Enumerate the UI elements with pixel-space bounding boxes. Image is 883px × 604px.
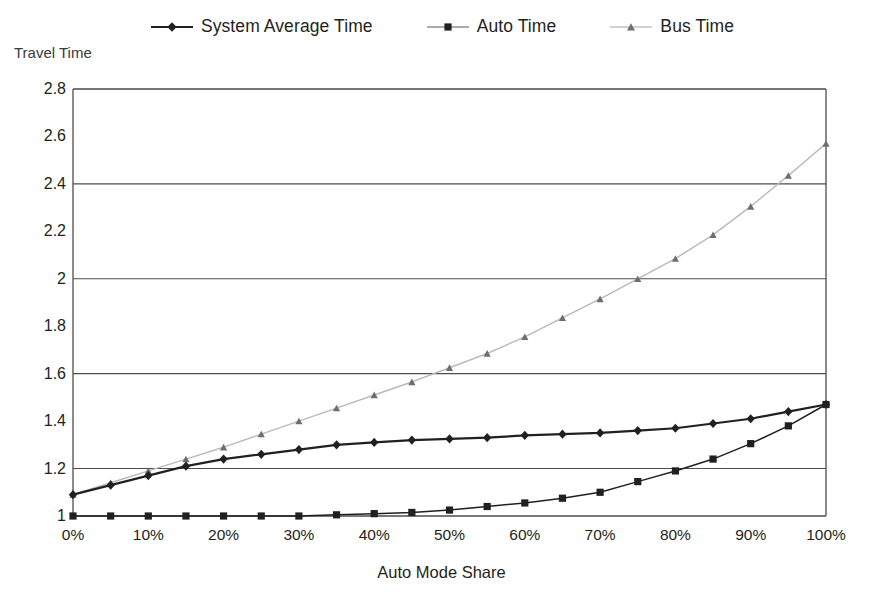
data-point-marker <box>484 350 491 357</box>
y-tick-label: 1.4 <box>10 412 66 430</box>
data-point-marker <box>521 499 528 506</box>
data-point-marker <box>445 434 453 443</box>
x-axis-title: Auto Mode Share <box>0 563 883 582</box>
data-point-marker <box>634 426 642 435</box>
data-point-marker <box>220 444 227 451</box>
data-point-marker <box>484 503 491 510</box>
data-point-marker <box>521 431 529 440</box>
data-point-marker <box>69 512 76 519</box>
x-tick-label: 80% <box>660 526 691 544</box>
data-point-marker <box>446 506 453 513</box>
y-tick-label: 1.8 <box>10 317 66 335</box>
y-tick-label: 1.2 <box>10 460 66 478</box>
data-point-marker <box>747 414 755 423</box>
data-point-marker <box>107 512 114 519</box>
x-tick-label: 60% <box>509 526 540 544</box>
data-point-marker <box>295 418 302 425</box>
data-point-marker <box>672 467 679 474</box>
x-tick-label: 10% <box>133 526 164 544</box>
y-tick-label: 2.6 <box>10 127 66 145</box>
data-point-marker <box>295 445 303 454</box>
data-point-marker <box>785 422 792 429</box>
data-point-marker <box>408 435 416 444</box>
data-point-marker <box>784 407 792 416</box>
data-point-marker <box>822 140 829 147</box>
x-tick-label: 70% <box>585 526 616 544</box>
data-point-marker <box>596 428 604 437</box>
data-point-marker <box>521 333 528 340</box>
data-point-marker <box>333 405 340 412</box>
data-point-marker <box>371 392 378 399</box>
data-point-marker <box>709 455 716 462</box>
data-point-marker <box>483 433 491 442</box>
data-point-marker <box>408 509 415 516</box>
data-point-marker <box>145 512 152 519</box>
data-point-marker <box>370 438 378 447</box>
x-tick-label: 0% <box>62 526 84 544</box>
data-point-marker <box>671 424 679 433</box>
data-point-marker <box>371 510 378 517</box>
data-point-marker <box>634 478 641 485</box>
data-point-marker <box>258 512 265 519</box>
y-tick-label: 2.4 <box>10 175 66 193</box>
y-axis-ticks: 2.82.62.42.221.81.61.41.21 <box>0 0 66 604</box>
data-point-marker <box>709 419 717 428</box>
data-point-marker <box>446 364 453 371</box>
data-point-marker <box>219 454 227 463</box>
data-point-marker <box>182 512 189 519</box>
data-point-marker <box>257 450 265 459</box>
data-point-marker <box>69 490 77 499</box>
x-tick-label: 20% <box>208 526 239 544</box>
data-point-marker <box>747 440 754 447</box>
y-tick-label: 2.8 <box>10 80 66 98</box>
data-point-marker <box>597 296 604 303</box>
x-tick-label: 100% <box>806 526 846 544</box>
data-point-marker <box>295 512 302 519</box>
data-point-marker <box>558 430 566 439</box>
x-tick-label: 30% <box>283 526 314 544</box>
data-point-marker <box>182 462 190 471</box>
y-tick-label: 2.2 <box>10 222 66 240</box>
data-point-marker <box>332 440 340 449</box>
series-system-average-time <box>69 400 830 499</box>
y-tick-label: 2 <box>10 270 66 288</box>
y-tick-label: 1 <box>10 507 66 525</box>
chart-figure: System Average Time Auto Time Bus Time T… <box>0 0 883 604</box>
y-tick-label: 1.6 <box>10 365 66 383</box>
data-point-marker <box>597 489 604 496</box>
series-bus-time <box>69 140 829 498</box>
plot-area <box>0 0 883 604</box>
data-point-marker <box>220 512 227 519</box>
data-point-marker <box>559 495 566 502</box>
data-point-marker <box>258 431 265 438</box>
x-tick-label: 50% <box>434 526 465 544</box>
data-point-marker <box>408 379 415 386</box>
series-line <box>73 405 826 495</box>
data-point-marker <box>559 315 566 322</box>
data-point-marker <box>333 511 340 518</box>
x-tick-label: 40% <box>359 526 390 544</box>
x-tick-label: 90% <box>735 526 766 544</box>
